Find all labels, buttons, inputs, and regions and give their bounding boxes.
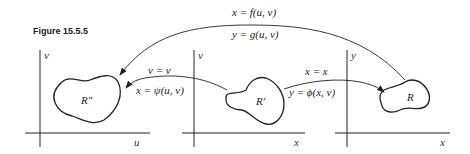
mapping-y-phi: y = ϕ(x, v)	[288, 86, 335, 99]
v-axis-label-1: v	[44, 49, 49, 61]
mapping-x-psi: x = ψ(u, v)	[135, 84, 184, 97]
mapping-x-x: x = x	[304, 65, 328, 77]
v-axis-label-2: v	[198, 49, 203, 61]
region-r	[380, 80, 429, 112]
x-axis-label-3: x	[439, 136, 445, 148]
x-axis-label-2: x	[293, 136, 299, 148]
mapping-x-f: x = f(u, v)	[231, 6, 276, 19]
y-axis-label: y	[350, 49, 356, 61]
region-label-r-double-prime: R″	[80, 94, 93, 106]
region-label-r-prime: R′	[255, 95, 266, 107]
transformation-diagram: v u R″ v x R′ y x R x = f(u, v) y = g(u,…	[0, 0, 470, 154]
mapping-y-g: y = g(u, v)	[231, 28, 279, 41]
mapping-v-v: v = v	[148, 64, 171, 76]
xy-axes	[335, 50, 450, 147]
u-axis-label: u	[134, 136, 140, 148]
region-label-r: R	[406, 91, 414, 103]
region-r-prime	[226, 78, 284, 125]
xv-axes	[182, 50, 305, 147]
